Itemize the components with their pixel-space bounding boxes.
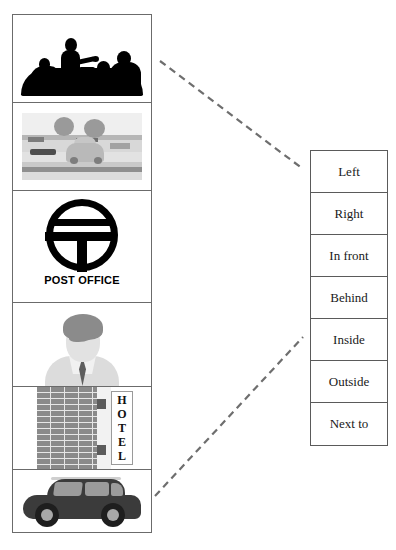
street-scene-image — [22, 113, 142, 180]
hotel-brick-wall — [37, 387, 97, 469]
image-cell-meeting[interactable] — [13, 15, 151, 103]
street-tree-left-icon — [54, 117, 74, 136]
street-sign-2 — [30, 149, 56, 155]
street-sign-1 — [28, 137, 44, 142]
image-column: POST OFFICE H O T E L — [12, 14, 152, 533]
post-office-logo-icon — [46, 199, 118, 271]
hotel-window-lower — [97, 445, 106, 455]
connector-meeting-to-list — [160, 61, 303, 169]
car-wheel-rear — [101, 503, 125, 527]
hotel-sign-letter-t: T — [118, 422, 126, 434]
meeting-person-right-head — [117, 51, 131, 66]
meeting-presenter-hand — [92, 56, 99, 62]
word-list: Left Right In front Behind Inside Outsid… — [310, 150, 388, 446]
image-cell-person[interactable] — [13, 303, 151, 387]
business-meeting-silhouette-icon — [13, 28, 151, 96]
car-window-front — [53, 482, 83, 496]
post-office-logo-bar-top — [52, 219, 110, 226]
hotel-building-image: H O T E L — [13, 387, 151, 469]
hotel-sign-letter-l: L — [118, 450, 126, 462]
image-cell-post-office[interactable]: POST OFFICE — [13, 191, 151, 303]
hotel-sign-letter-e: E — [118, 436, 126, 448]
hotel-window-upper — [97, 399, 106, 409]
word-option-in-front[interactable]: In front — [311, 235, 387, 277]
street-car-wheel-front — [70, 157, 78, 164]
car-window-rear — [111, 483, 123, 496]
meeting-presenter-head — [65, 38, 77, 52]
car-image — [21, 475, 145, 527]
street-band-6 — [22, 172, 142, 180]
car-wheel-front — [35, 503, 59, 527]
hotel-sign: H O T E L — [111, 391, 133, 465]
word-option-left[interactable]: Left — [311, 151, 387, 193]
meeting-person-right-shirt — [13, 42, 18, 59]
meeting-cup-icon — [57, 70, 64, 76]
street-sign-4 — [110, 143, 130, 149]
street-sky — [22, 113, 142, 135]
post-office-caption: POST OFFICE — [44, 274, 120, 286]
word-option-next-to[interactable]: Next to — [311, 403, 387, 445]
post-office-logo-stem — [77, 232, 87, 272]
connector-car-to-list — [155, 337, 303, 496]
meeting-person-left-shirt — [13, 28, 17, 42]
word-option-outside[interactable]: Outside — [311, 361, 387, 403]
hotel-sign-letter-h: H — [117, 394, 126, 406]
man-avatar-image — [13, 306, 151, 386]
image-cell-street[interactable] — [13, 103, 151, 191]
image-cell-car[interactable] — [13, 470, 151, 532]
car-window-middle — [85, 482, 109, 496]
word-option-right[interactable]: Right — [311, 193, 387, 235]
post-office-graphic: POST OFFICE — [13, 199, 151, 286]
word-option-inside[interactable]: Inside — [311, 319, 387, 361]
image-cell-hotel[interactable]: H O T E L — [13, 387, 151, 470]
word-option-behind[interactable]: Behind — [311, 277, 387, 319]
meeting-laptop-icon — [79, 67, 95, 76]
street-tree-right-icon — [84, 119, 105, 138]
street-car-wheel-rear — [94, 157, 102, 164]
hotel-sign-letter-o: O — [117, 408, 126, 420]
